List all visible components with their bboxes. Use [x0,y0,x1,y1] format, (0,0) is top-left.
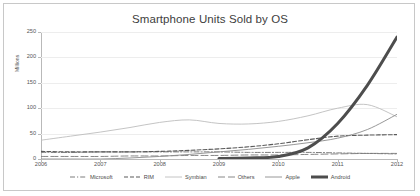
plot-area: 050100150200250 200620072008200920102011… [41,32,397,159]
legend-item-rim[interactable]: RIM [124,174,154,180]
y-tick-label: 200 [12,54,36,60]
legend-label: RIM [144,174,154,180]
legend-item-microsoft[interactable]: Microsoft [70,174,113,180]
x-tick-mark [338,159,339,162]
legend-item-android[interactable]: Android [311,174,350,180]
legend-swatch-icon [218,175,235,179]
x-tick-mark [278,159,279,162]
y-tick-label: 150 [12,80,36,86]
x-tick-mark [160,159,161,162]
x-tick-mark [100,159,101,162]
chart-frame: Smartphone Units Sold by OS Millions 050… [3,3,415,191]
y-tick-label: 50 [12,131,36,137]
legend-label: Symbian [185,174,207,180]
legend-item-apple[interactable]: Apple [265,174,299,180]
y-tick-label: 0 [12,156,36,162]
series-line-android [219,37,397,158]
page-title: Smartphone Units Sold by OS [4,13,416,25]
legend-swatch-icon [311,175,328,179]
legend-label: Apple [285,174,299,180]
legend-label: Android [331,174,350,180]
legend-swatch-icon [165,175,182,179]
x-tick-mark [41,159,42,162]
x-tick-mark [397,159,398,162]
legend-item-others[interactable]: Others [218,174,255,180]
x-tick-mark [219,159,220,162]
legend-label: Others [238,174,255,180]
y-tick-label: 100 [12,105,36,111]
legend-swatch-icon [124,175,141,179]
y-tick-label: 250 [12,29,36,35]
series-line-symbian [41,104,397,140]
chart-legend: MicrosoftRIMSymbianOthersAppleAndroid [4,174,416,180]
legend-swatch-icon [70,175,87,179]
legend-label: Microsoft [90,174,113,180]
series-lines [41,32,397,159]
series-line-others [41,153,397,156]
legend-item-symbian[interactable]: Symbian [165,174,207,180]
legend-swatch-icon [265,175,282,179]
